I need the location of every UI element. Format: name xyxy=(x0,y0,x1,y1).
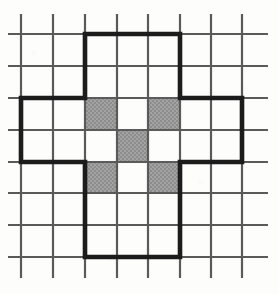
grid-diagram: Grid with cross-shaped outline and shade… xyxy=(0,0,279,294)
shaded-cell-c4-r2 xyxy=(148,98,180,130)
shaded-cell-c2-r4 xyxy=(85,162,117,193)
figure-root: Grid with cross-shaped outline and shade… xyxy=(0,0,279,294)
shaded-cell-c3-r3 xyxy=(117,130,148,162)
shaded-cell-c2-r2 xyxy=(85,98,117,130)
shaded-cell-c4-r4 xyxy=(148,162,180,193)
